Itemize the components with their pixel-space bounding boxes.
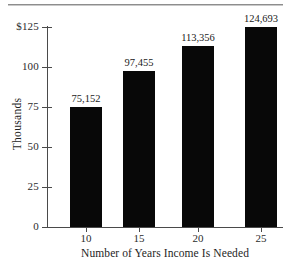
y-tick-inner: [48, 187, 52, 188]
bar: [182, 46, 214, 227]
y-tick-mark: [42, 107, 47, 108]
y-tick-inner: [48, 27, 52, 28]
y-tick-label: 50: [28, 141, 39, 152]
y-tick-inner: [48, 107, 52, 108]
bar-value-label: 124,693: [227, 14, 288, 25]
y-tick-mark: [42, 27, 47, 28]
y-tick-label: $125: [16, 21, 39, 32]
x-tick-label: 20: [178, 233, 218, 244]
y-tick-mark: [42, 147, 47, 148]
y-tick-mark: [42, 187, 47, 188]
bar-value-label: 113,356: [164, 33, 232, 44]
y-tick-label: 0: [33, 221, 39, 232]
y-tick-inner: [48, 67, 52, 68]
x-axis-line: [47, 227, 283, 228]
x-tick-label: 25: [241, 233, 281, 244]
plot-area: $125 100 75 50 25 0 75,152 10 97,455 15 …: [0, 0, 288, 264]
y-tick-inner: [48, 147, 52, 148]
bar: [245, 27, 277, 227]
bar: [70, 107, 102, 227]
y-tick-label: 75: [28, 101, 39, 112]
y-tick-mark: [42, 67, 47, 68]
x-tick-label: 15: [119, 233, 159, 244]
bar-chart-figure: $125 100 75 50 25 0 75,152 10 97,455 15 …: [0, 0, 288, 264]
y-axis-title: Thousands: [11, 79, 23, 169]
y-tick-label: 25: [28, 181, 39, 192]
y-tick-label: 100: [22, 61, 39, 72]
y-axis-line: [47, 26, 48, 228]
x-tick-label: 10: [66, 233, 106, 244]
y-tick-mark: [42, 227, 47, 228]
bar-value-label: 75,152: [52, 94, 120, 105]
bar-value-label: 97,455: [105, 58, 173, 69]
bar: [123, 71, 155, 227]
x-axis-title: Number of Years Income Is Needed: [47, 247, 283, 259]
